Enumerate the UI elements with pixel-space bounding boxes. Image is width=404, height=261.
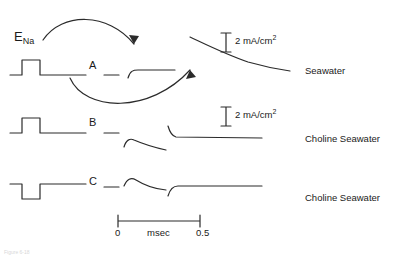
pulse-trace-c (10, 184, 86, 199)
scale-bar-exponent-1: 2 (272, 34, 276, 41)
annotation-arc-ena (43, 19, 134, 44)
pulse-trace-b (10, 118, 86, 133)
scale-bar-1 (221, 33, 231, 52)
annotation-arc-expand (70, 70, 190, 103)
current-flat-trace-b (168, 126, 262, 138)
figure-caption: Figure 6-18 (4, 249, 30, 255)
scale-bar-2 (221, 107, 231, 126)
ena-label-subscript: Na (23, 36, 35, 46)
arrowhead-expand (186, 70, 196, 79)
scale-bar-value-2: 2 mA/cm (235, 109, 272, 120)
time-axis-bar (118, 215, 200, 227)
ena-label-main: E (14, 29, 23, 44)
current-trace-c (124, 179, 166, 190)
axis-tick-start: 0 (115, 228, 120, 238)
trace-letter-a: A (89, 60, 96, 71)
current-trace-a (128, 70, 175, 78)
solution-label-b: Choline Seawater (305, 134, 380, 144)
current-flat-trace-c (168, 186, 262, 196)
trace-letter-c: C (89, 176, 97, 187)
axis-unit-label: msec (147, 228, 170, 238)
scale-bar-label-1: 2 mA/cm2 (235, 36, 276, 46)
figure-traces (0, 0, 404, 261)
scale-bar-exponent-2: 2 (272, 108, 276, 115)
current-trace-b (124, 139, 166, 150)
solution-label-a: Seawater (305, 66, 345, 76)
solution-label-c: Choline Seawater (305, 193, 380, 203)
trace-letter-b: B (89, 117, 96, 128)
scale-bar-label-2: 2 mA/cm2 (235, 110, 276, 120)
axis-tick-end: 0.5 (196, 228, 209, 238)
figure-panel: ENa A B C Seawater Choline Seawater Chol… (0, 0, 404, 261)
pulse-trace-a (10, 60, 86, 75)
ena-label: ENa (14, 30, 34, 43)
scale-bar-value-1: 2 mA/cm (235, 35, 272, 46)
